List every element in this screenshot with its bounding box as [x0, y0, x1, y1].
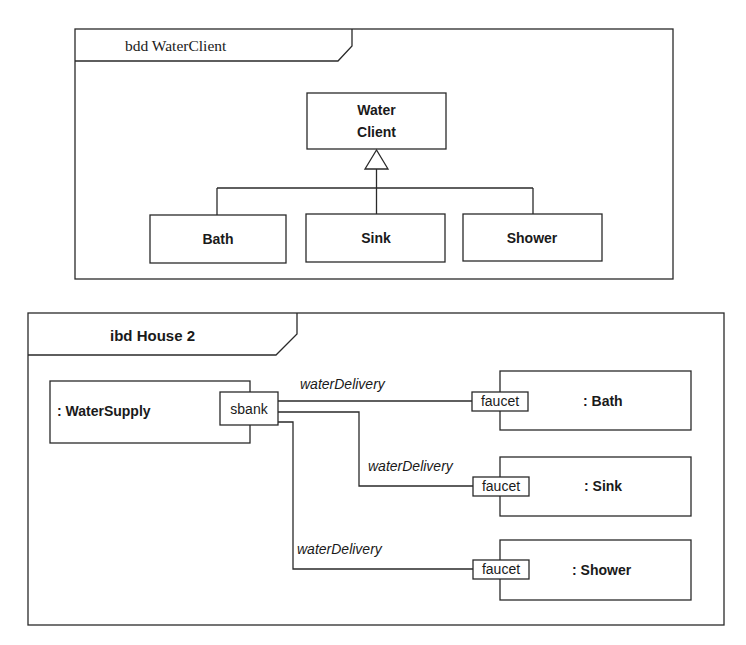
connector-to-shower[interactable]: waterDelivery	[278, 422, 473, 569]
port-faucet-shower[interactable]: faucet	[473, 560, 529, 579]
port-faucet-sink-label: faucet	[482, 478, 520, 494]
block-shower[interactable]: Shower	[463, 214, 602, 261]
block-water-client-label-line1: Water	[357, 102, 396, 118]
block-water-client[interactable]: Water Client	[307, 93, 446, 149]
port-sbank-label: sbank	[230, 401, 268, 417]
bdd-frame-title: bdd WaterClient	[125, 37, 227, 54]
part-sink-label: : Sink	[584, 478, 622, 494]
connector-to-bath[interactable]: waterDelivery	[278, 376, 472, 401]
port-faucet-sink[interactable]: faucet	[473, 477, 529, 496]
connector-to-sink[interactable]: waterDelivery	[278, 412, 473, 486]
block-sink-label: Sink	[361, 230, 391, 246]
port-faucet-bath-label: faucet	[481, 393, 519, 409]
connector-to-sink-label: waterDelivery	[368, 458, 454, 474]
block-shower-label: Shower	[507, 230, 558, 246]
port-faucet-shower-label: faucet	[482, 561, 520, 577]
part-bath-label: : Bath	[583, 393, 623, 409]
generalization-arrowhead-icon	[365, 150, 388, 169]
generalization-connector	[217, 150, 533, 215]
part-shower-label: : Shower	[572, 562, 632, 578]
block-sink[interactable]: Sink	[306, 214, 445, 262]
port-faucet-bath[interactable]: faucet	[472, 392, 528, 411]
ibd-frame-title: ibd House 2	[110, 327, 195, 344]
block-water-client-label-line2: Client	[357, 124, 396, 140]
block-bath-label: Bath	[202, 231, 233, 247]
port-sbank[interactable]: sbank	[220, 392, 278, 425]
connector-to-shower-label: waterDelivery	[297, 541, 383, 557]
part-water-supply-label: : WaterSupply	[57, 403, 151, 419]
block-bath[interactable]: Bath	[150, 215, 286, 263]
part-bath[interactable]: : Bath	[500, 371, 691, 430]
connector-to-bath-label: waterDelivery	[300, 376, 386, 392]
